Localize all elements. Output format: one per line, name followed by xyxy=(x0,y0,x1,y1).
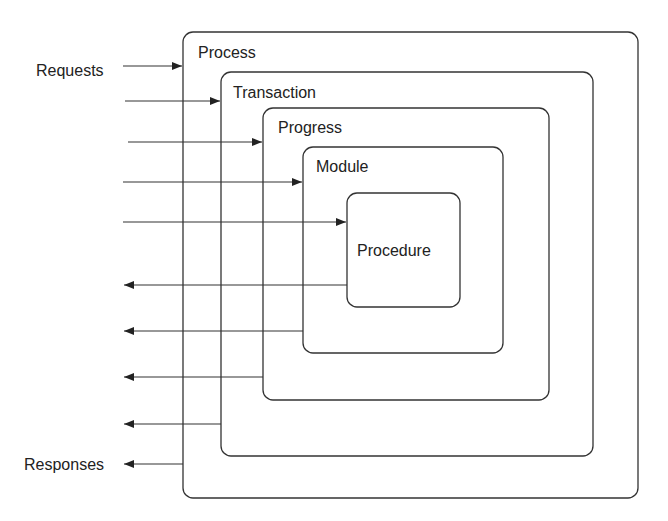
nested-scope-diagram: Process Transaction Progress Module Proc… xyxy=(0,0,668,521)
responses-label: Responses xyxy=(24,456,104,473)
process-box xyxy=(183,32,638,498)
module-label: Module xyxy=(316,158,369,175)
transaction-box xyxy=(221,72,593,456)
progress-label: Progress xyxy=(278,119,342,136)
process-label: Process xyxy=(198,44,256,61)
procedure-label: Procedure xyxy=(357,242,431,259)
requests-label: Requests xyxy=(36,62,104,79)
transaction-label: Transaction xyxy=(233,84,316,101)
